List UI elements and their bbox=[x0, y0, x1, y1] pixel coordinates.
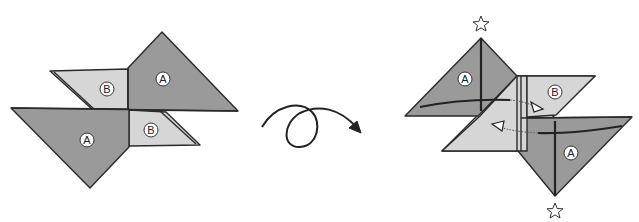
svg-text:A: A bbox=[461, 73, 469, 85]
left-panel-a-bottom bbox=[11, 108, 129, 188]
right-label-a-bottom: A bbox=[564, 146, 578, 160]
origami-diagram: A B A B bbox=[0, 0, 639, 222]
svg-text:B: B bbox=[551, 86, 558, 98]
left-label-a-top: A bbox=[156, 72, 170, 86]
svg-text:A: A bbox=[83, 134, 91, 146]
left-label-b-top: B bbox=[100, 82, 114, 96]
svg-text:B: B bbox=[103, 83, 110, 95]
svg-text:B: B bbox=[147, 124, 154, 136]
right-label-a-top: A bbox=[458, 72, 472, 86]
left-panel-a-top bbox=[128, 32, 238, 111]
star-bottom-icon bbox=[547, 203, 563, 218]
svg-text:A: A bbox=[159, 73, 167, 85]
svg-text:A: A bbox=[567, 147, 575, 159]
turn-over-loop-arrow-icon bbox=[262, 106, 361, 147]
left-label-b-bottom: B bbox=[144, 123, 158, 137]
left-figure: A B A B bbox=[11, 32, 238, 188]
right-figure: A B A bbox=[405, 16, 632, 218]
left-label-a-bottom: A bbox=[80, 133, 94, 147]
right-lower-a-top-edge bbox=[521, 117, 632, 118]
star-top-icon bbox=[473, 16, 489, 31]
right-label-b: B bbox=[548, 85, 562, 99]
